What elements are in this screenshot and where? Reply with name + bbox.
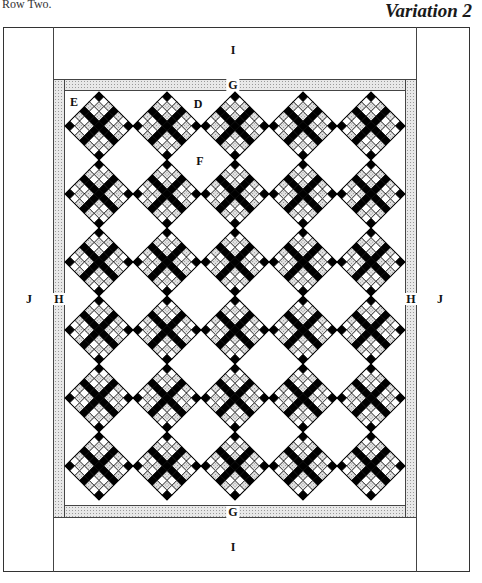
quilt-block: [201, 432, 269, 500]
quilt-block: [65, 364, 133, 432]
quilt-block: [269, 364, 337, 432]
quilt-block: [201, 296, 269, 364]
label-i-top: I: [231, 44, 236, 56]
label-h-left: H: [52, 293, 65, 305]
quilt-block: [133, 228, 201, 296]
quilt-block: [269, 432, 337, 500]
quilt-block: [269, 228, 337, 296]
quilt-block: [269, 160, 337, 228]
quilt-block: [201, 160, 269, 228]
label-h-right: H: [404, 293, 417, 305]
label-j-left: J: [26, 293, 32, 305]
quilt-block: [133, 160, 201, 228]
quilt-block: [337, 160, 405, 228]
quilt-block: [337, 228, 405, 296]
quilt-block: [269, 92, 337, 160]
quilt-block: [133, 92, 201, 160]
label-f: F: [196, 155, 203, 167]
label-g-top: G: [226, 79, 239, 91]
quilt-block: [133, 432, 201, 500]
label-i-bottom: I: [231, 541, 236, 553]
quilt-block: [201, 364, 269, 432]
label-e: E: [70, 96, 78, 108]
quilt-block: [65, 432, 133, 500]
quilt-block: [65, 296, 133, 364]
quilt-block: [337, 364, 405, 432]
label-d: D: [194, 98, 203, 110]
quilt-block: [337, 296, 405, 364]
quilt-block: [133, 296, 201, 364]
quilt-block: [65, 228, 133, 296]
quilt-block: [201, 92, 269, 160]
quilt-diagram: IGEDFJHHJGI: [0, 0, 482, 583]
quilt-block: [337, 432, 405, 500]
quilt-block: [133, 364, 201, 432]
quilt-block: [201, 228, 269, 296]
label-j-right: J: [437, 293, 443, 305]
quilt-block: [337, 92, 405, 160]
label-g-bottom: G: [226, 506, 239, 518]
quilt-block: [65, 160, 133, 228]
quilt-block: [269, 296, 337, 364]
